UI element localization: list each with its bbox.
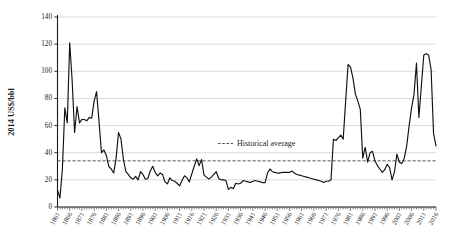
x-tick-label: 1866: [61, 210, 74, 226]
x-tick-label: 1901: [146, 211, 159, 226]
x-tick-label: 1911: [171, 211, 184, 226]
x-tick-label: 1991: [366, 211, 379, 226]
x-tick-label: 2006: [402, 210, 415, 226]
y-tick-label: 140: [41, 13, 52, 21]
y-axis-title: 2014 US$/bbl: [7, 87, 16, 135]
x-tick-label: 1881: [97, 211, 110, 226]
x-tick-label: 2011: [415, 211, 428, 226]
y-axis-ticks: 020406080100120140: [41, 13, 57, 211]
x-tick-label: 1986: [354, 210, 367, 226]
y-tick-label: 20: [45, 176, 53, 184]
x-tick-label: 1916: [183, 210, 196, 226]
x-tick-label: 1971: [317, 211, 330, 226]
x-axis-minor-ticks: [58, 207, 437, 211]
x-tick-label: 1876: [85, 210, 98, 226]
x-tick-label: 1961: [293, 211, 306, 226]
x-tick-label: 1976: [329, 210, 342, 226]
x-tick-label: 1946: [256, 210, 269, 226]
y-tick-label: 100: [41, 67, 52, 75]
chart-legend: Historical average: [218, 139, 296, 148]
y-tick-label: 0: [48, 203, 52, 211]
y-tick-label: 120: [41, 40, 52, 48]
x-tick-label: 1921: [195, 211, 208, 226]
x-tick-label: 1981: [341, 211, 354, 226]
x-tick-label: 1871: [73, 211, 86, 226]
x-tick-label: 2001: [390, 211, 403, 226]
y-tick-label: 60: [45, 122, 53, 130]
x-tick-label: 1931: [219, 211, 232, 226]
x-tick-label: 1896: [134, 210, 147, 226]
x-axis-ticks: 1861186618711876188118861891189619011906…: [48, 210, 440, 226]
x-tick-label: 1891: [122, 211, 135, 226]
x-tick-label: 1926: [207, 210, 220, 226]
x-tick-label: 1966: [305, 210, 318, 226]
gridlines: [58, 17, 437, 180]
x-tick-label: 1861: [48, 211, 61, 226]
x-tick-label: 1886: [109, 210, 122, 226]
x-tick-label: 1936: [231, 210, 244, 226]
chart-figure: 020406080100120140 186118661871187618811…: [0, 0, 449, 250]
x-tick-label: 2016: [427, 210, 440, 226]
legend-label-historical-average: Historical average: [237, 139, 296, 148]
x-tick-label: 1941: [244, 211, 257, 226]
x-tick-label: 1906: [158, 210, 171, 226]
oil-price-line-chart: 020406080100120140 186118661871187618811…: [0, 0, 449, 250]
oil-price-series-line: [58, 43, 437, 198]
y-tick-label: 40: [45, 149, 53, 157]
x-tick-label: 1956: [280, 210, 293, 226]
y-tick-label: 80: [45, 94, 53, 102]
x-tick-label: 1951: [268, 211, 281, 226]
x-tick-label: 1996: [378, 210, 391, 226]
